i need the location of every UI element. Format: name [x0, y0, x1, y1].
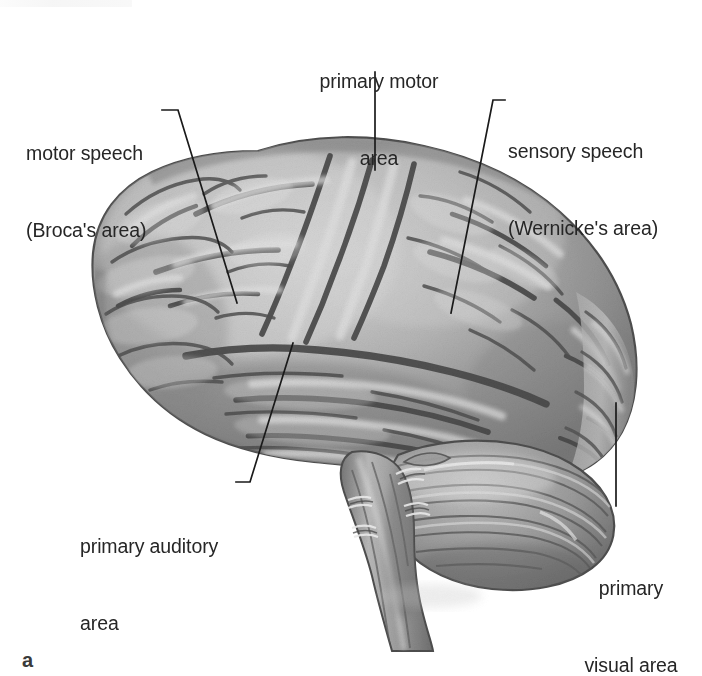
label-motor-speech-line1: motor speech: [26, 141, 146, 167]
label-primary-auditory-line2: area: [80, 611, 218, 637]
label-primary-motor: primary motor area: [289, 18, 469, 222]
label-primary-auditory-line1: primary auditory: [80, 534, 218, 560]
label-motor-speech-line2: (Broca's area): [26, 218, 146, 244]
label-primary-visual-line2: visual area: [567, 653, 695, 676]
label-primary-auditory: primary auditory area: [80, 483, 218, 676]
label-motor-speech: motor speech (Broca's area): [26, 90, 146, 294]
label-sensory-speech-line2: (Wernicke's area): [508, 216, 658, 242]
label-primary-motor-line1: primary motor: [289, 69, 469, 95]
label-primary-visual-line1: primary: [567, 576, 695, 602]
figure-part-label: a: [22, 649, 33, 672]
label-sensory-speech: sensory speech (Wernicke's area): [508, 88, 658, 292]
label-primary-visual: primary visual area: [567, 525, 695, 676]
label-primary-motor-line2: area: [289, 146, 469, 172]
label-sensory-speech-line1: sensory speech: [508, 139, 658, 165]
